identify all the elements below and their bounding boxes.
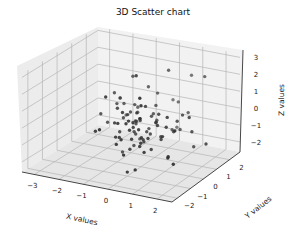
data-point [175,126,178,129]
data-point [176,120,179,123]
svg-text:0: 0 [254,105,258,113]
data-point [122,116,125,119]
data-point [171,98,174,101]
data-point [98,128,101,131]
data-point [177,100,180,103]
data-point [138,97,141,100]
data-point [157,113,160,116]
data-point [181,113,184,116]
data-point [140,136,143,139]
data-point [147,85,150,88]
data-point [119,138,122,141]
data-point [132,144,135,147]
data-point [167,69,170,72]
data-point [104,95,107,98]
data-point [116,107,119,110]
data-point [187,111,190,114]
svg-text:0: 0 [104,197,108,205]
data-point [142,151,145,154]
data-point [139,142,142,145]
data-point [173,129,176,132]
data-point [131,75,134,78]
data-point [156,124,159,127]
data-point [119,96,122,99]
data-point [122,153,125,156]
svg-text:2: 2 [153,207,157,215]
svg-text:−1: −1 [197,193,207,201]
data-point [145,130,148,133]
data-point [138,145,141,148]
data-point [130,138,133,141]
data-point [115,102,118,105]
data-point [106,121,109,124]
data-point [126,170,129,173]
data-point [113,91,116,94]
data-point [124,122,127,125]
data-point [156,91,159,94]
svg-text:−3: −3 [27,182,37,190]
data-point [122,102,125,105]
data-point [116,122,119,125]
data-point [139,104,142,107]
data-point [146,137,149,140]
data-point [94,130,97,133]
svg-text:−1: −1 [251,122,261,130]
svg-text:1: 1 [128,202,132,210]
svg-text:−2: −2 [184,202,194,210]
data-point [167,155,170,158]
data-point [142,140,145,143]
svg-text:0: 0 [213,183,217,191]
data-point [121,111,124,114]
data-point [132,126,135,129]
data-point [118,130,121,133]
data-point [149,132,152,135]
svg-text:−2: −2 [251,139,261,147]
data-point [190,130,193,133]
data-point [128,129,131,132]
data-point [192,145,195,148]
data-point [127,119,130,122]
data-point [138,117,141,120]
scatter-3d-chart: −3−2−1012−2−1012−2−10123 3D Scatter char… [0,0,306,227]
data-point [99,112,102,115]
x-axis-label: X values [65,212,98,227]
data-point [178,128,181,131]
data-point [137,128,140,131]
y-axis-label: Y values [242,194,273,221]
data-point [203,75,206,78]
data-point [135,74,138,77]
data-point [131,121,134,124]
svg-text:1: 1 [254,88,258,96]
data-point [144,105,147,108]
data-point [133,130,136,133]
data-point [126,113,129,116]
data-point [129,110,132,113]
svg-text:2: 2 [254,71,258,79]
data-point [128,148,131,151]
data-point [190,74,193,77]
chart-title: 3D Scatter chart [116,7,191,17]
data-point [188,116,191,119]
svg-text:−2: −2 [52,187,62,195]
data-point [114,135,117,138]
data-point [115,143,118,146]
svg-text:3: 3 [254,54,258,62]
data-point [136,106,139,109]
data-point [154,104,157,107]
data-point [165,126,168,129]
data-point [135,111,138,114]
svg-text:−1: −1 [76,192,86,200]
data-point [113,121,116,124]
data-point [150,148,153,151]
svg-text:2: 2 [239,164,243,172]
data-point [159,138,162,141]
data-point [135,120,138,123]
data-point [147,127,150,130]
data-point [150,115,153,118]
data-point [121,150,124,153]
data-point [161,135,164,138]
z-axis-label: Z values [277,84,286,116]
data-point [172,163,175,166]
data-point [204,142,207,145]
data-point [133,103,136,106]
